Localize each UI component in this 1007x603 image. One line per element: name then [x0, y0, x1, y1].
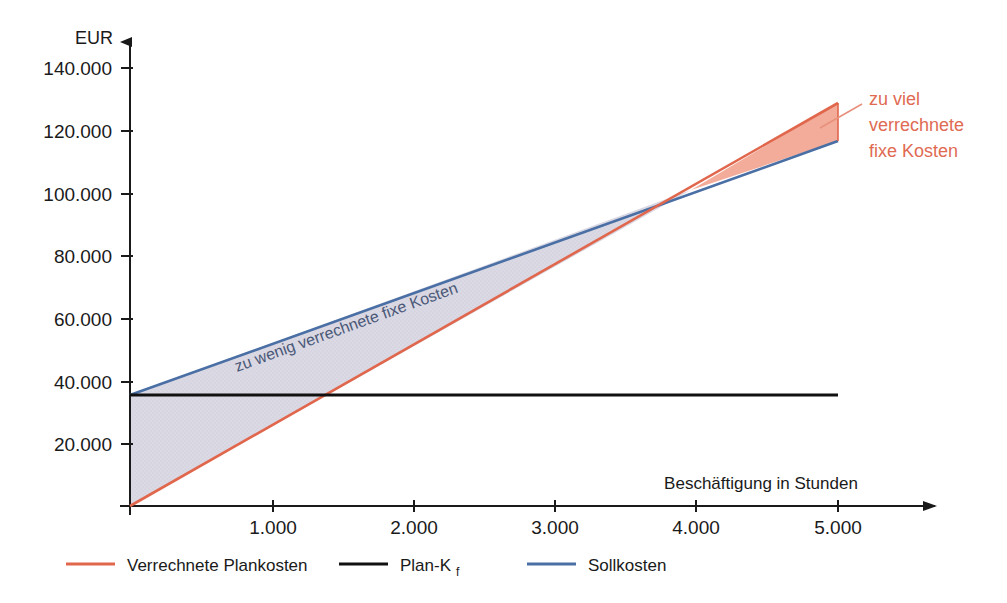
y-tick-label: 100.000 [43, 184, 112, 205]
legend-label: Sollkosten [588, 556, 666, 575]
y-tick-label: 80.000 [54, 246, 112, 267]
x-tick-label: 1.000 [249, 517, 297, 538]
legend-item-verrechnete-plankosten[interactable]: Verrechnete Plankosten [66, 556, 308, 575]
y-tick-label: 40.000 [54, 372, 112, 393]
x-tick-label: 2.000 [390, 517, 438, 538]
annotation-zu-viel-line1: zu viel [869, 89, 920, 109]
x-tick-label: 4.000 [672, 517, 720, 538]
legend-item-sollkosten[interactable]: Sollkosten [527, 556, 666, 575]
y-tick-label: 60.000 [54, 309, 112, 330]
y-axis-ticks [121, 68, 133, 444]
series-line-verrechnete-plankosten [130, 103, 838, 506]
annotation-zu-viel-line2: verrechnete [869, 115, 964, 135]
x-tick-label: 5.000 [814, 517, 862, 538]
legend-item-plan-kf[interactable]: Plan-K f [339, 556, 460, 579]
legend-label: Plan-K [400, 556, 452, 575]
x-tick-labels: 1.000 2.000 3.000 4.000 5.000 [249, 517, 862, 538]
legend-label: Verrechnete Plankosten [127, 556, 308, 575]
chart-legend: Verrechnete Plankosten Plan-K f Sollkost… [66, 556, 666, 579]
annotation-zu-viel: zu viel verrechnete fixe Kosten [869, 89, 964, 161]
x-tick-label: 3.000 [531, 517, 579, 538]
y-tick-labels: 140.000 120.000 100.000 80.000 60.000 40… [43, 58, 112, 455]
y-tick-label: 120.000 [43, 121, 112, 142]
y-tick-label: 140.000 [43, 58, 112, 79]
y-tick-label: 20.000 [54, 434, 112, 455]
legend-label-subscript: f [456, 565, 460, 579]
cost-variance-chart: 140.000 120.000 100.000 80.000 60.000 40… [0, 0, 1007, 603]
y-axis-unit-label: EUR [75, 28, 113, 48]
x-axis-title: Beschäftigung in Stunden [664, 474, 858, 493]
annotation-zu-viel-line3: fixe Kosten [869, 141, 958, 161]
chart-canvas: 140.000 120.000 100.000 80.000 60.000 40… [0, 0, 1007, 603]
